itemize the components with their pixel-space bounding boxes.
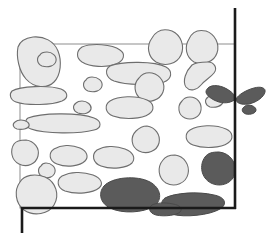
clast-dark <box>150 203 181 216</box>
clast-light <box>12 140 39 166</box>
clast-dark <box>242 105 256 114</box>
clast-dark <box>202 152 236 185</box>
clast-light <box>186 30 218 63</box>
clast-light <box>84 77 103 92</box>
clast-light <box>78 45 124 67</box>
clast-light <box>159 155 188 185</box>
clast-light <box>135 73 164 101</box>
clast-light <box>186 126 232 148</box>
clast-light <box>10 87 66 105</box>
clast-light <box>149 30 183 65</box>
clast-light <box>50 145 87 166</box>
clast-light <box>13 120 29 129</box>
clast-light <box>58 172 101 193</box>
clast-light <box>179 97 201 119</box>
clast-light <box>38 52 57 67</box>
figure-container <box>0 0 275 245</box>
clast-fabric-figure <box>0 0 275 245</box>
clast-light <box>74 101 92 114</box>
clast-light <box>106 97 153 119</box>
clast-light <box>94 146 134 168</box>
clast-light <box>26 114 100 133</box>
